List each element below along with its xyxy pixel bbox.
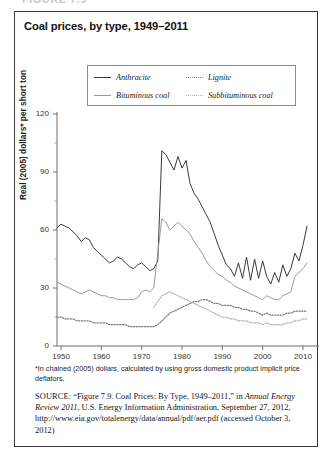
figure-frame: Coal prices, by type, 1949–2011 Anthraci… xyxy=(14,11,318,447)
y-axis-tick-label: 0 xyxy=(27,341,49,350)
series-line-subbituminous-coal xyxy=(154,292,307,325)
y-axis-tick-label: 30 xyxy=(27,283,49,292)
series-line-anthracite xyxy=(57,151,307,284)
source-text-1: “Figure 7.9. Coal Prices: By Type, 1949–… xyxy=(71,392,245,401)
y-axis-tick-label: 90 xyxy=(27,167,49,176)
x-axis-tick-label: 1980 xyxy=(169,352,195,361)
figure-page: FIGURE 7.9 Coal prices, by type, 1949–20… xyxy=(0,0,332,461)
y-axis-tick-label: 120 xyxy=(27,109,49,118)
page-top-strip: FIGURE 7.9 xyxy=(0,0,332,11)
x-axis-tick-label: 1960 xyxy=(88,352,114,361)
series-line-lignite xyxy=(57,300,307,327)
series-line-bituminous-coal xyxy=(57,218,307,299)
x-axis-tick-label: 2010 xyxy=(290,352,316,361)
y-axis-tick-label: 60 xyxy=(27,225,49,234)
x-axis-tick-label: 1970 xyxy=(129,352,155,361)
footnote: *In chained (2005) dollars, calculated b… xyxy=(35,364,303,384)
source-note: SOURCE: “Figure 7.9. Coal Prices: By Typ… xyxy=(35,391,307,436)
figure-number-label: FIGURE 7.9 xyxy=(22,0,87,5)
source-label: SOURCE: xyxy=(35,392,71,401)
x-axis-tick-label: 2000 xyxy=(250,352,276,361)
x-axis-tick-label: 1950 xyxy=(48,352,74,361)
x-axis-tick-label: 1990 xyxy=(209,352,235,361)
